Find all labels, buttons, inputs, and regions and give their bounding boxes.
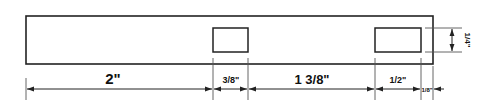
dim-label-3-8in: 3/8" xyxy=(223,75,240,85)
dim-label-1-2in: 1/2" xyxy=(390,75,407,85)
dim-label-1-3-8in: 1 3/8" xyxy=(294,72,329,87)
dimension-lines xyxy=(27,29,452,89)
dim-label-1-8in: 1/8" xyxy=(421,87,432,93)
part-drawing: 2" 3/8" 1 3/8" 1/2" 1/8" 1/4" xyxy=(0,0,494,109)
dim-label-1-4in-height: 1/4" xyxy=(463,33,472,48)
left-slot xyxy=(213,28,248,52)
dim-label-2in: 2" xyxy=(105,70,120,87)
right-slot xyxy=(375,28,421,52)
bar-outline xyxy=(26,16,433,64)
